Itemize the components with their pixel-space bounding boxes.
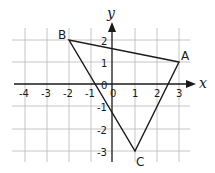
vertex-label-a: A <box>181 49 190 63</box>
x-tick: 3 <box>176 88 182 99</box>
x-tick: 0 <box>110 88 116 99</box>
y-tick: 0 <box>101 80 107 91</box>
x-tick: 2 <box>154 88 160 99</box>
y-tick: -1 <box>97 102 107 113</box>
y-axis-label: y <box>106 5 116 21</box>
vertex-label-b: B <box>58 28 66 42</box>
vertex-labels: A B C <box>58 28 190 169</box>
x-axis-label: x <box>199 75 207 91</box>
y-tick: -3 <box>97 147 107 158</box>
x-tick: -3 <box>41 88 51 99</box>
axes: x y <box>14 5 207 162</box>
y-axis-arrow-icon <box>108 22 116 32</box>
vertex-label-c: C <box>136 155 144 169</box>
x-tick: -4 <box>19 88 29 99</box>
coordinate-plane: x y -4 -3 -2 -1 0 1 2 3 2 1 0 -1 -2 -3 A… <box>0 0 215 173</box>
x-axis-arrow-icon <box>186 80 196 88</box>
x-tick: 1 <box>132 88 138 99</box>
x-tick: -2 <box>63 88 73 99</box>
y-tick: -2 <box>97 125 107 136</box>
x-tick: -1 <box>85 88 95 99</box>
y-tick: 2 <box>101 36 107 47</box>
y-tick: 1 <box>101 58 107 69</box>
